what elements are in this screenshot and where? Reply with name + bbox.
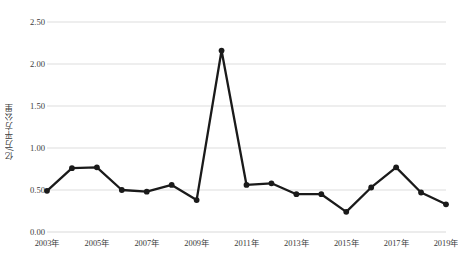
data-point-marker xyxy=(69,165,75,171)
data-point-marker xyxy=(119,187,125,193)
data-point-marker xyxy=(144,189,150,195)
x-axis-tick-label: 2015年 xyxy=(334,236,359,248)
x-axis-tick-label: 2009年 xyxy=(184,236,209,248)
x-axis-tick-label: 2011年 xyxy=(234,236,258,248)
x-axis-tick-label: 2003年 xyxy=(35,236,60,248)
data-point-marker xyxy=(443,201,449,207)
x-axis-tick-label: 2019年 xyxy=(434,236,458,248)
data-point-marker xyxy=(343,209,349,215)
data-point-marker xyxy=(219,48,225,54)
data-point-marker xyxy=(318,191,324,197)
data-point-marker xyxy=(94,164,100,170)
data-point-marker xyxy=(393,164,399,170)
data-point-marker xyxy=(169,182,175,188)
x-axis-tick-label: 2007年 xyxy=(134,236,159,248)
data-point-marker xyxy=(293,191,299,197)
data-point-marker xyxy=(418,190,424,196)
data-point-marker xyxy=(269,180,275,186)
data-point-marker xyxy=(44,188,50,194)
data-point-marker xyxy=(244,182,250,188)
data-point-marker xyxy=(194,197,200,203)
x-axis-tick-labels: 2003年2005年2007年2009年2011年2013年2015年2017年… xyxy=(0,236,457,260)
x-axis-tick-label: 2005年 xyxy=(85,236,110,248)
x-axis-tick-label: 2017年 xyxy=(384,236,409,248)
data-point-marker xyxy=(368,185,374,191)
x-axis-tick-label: 2013年 xyxy=(284,236,309,248)
